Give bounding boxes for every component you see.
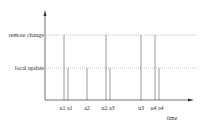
- remote-change-label: remote change: [9, 32, 44, 38]
- tick-label-u3: u3: [138, 105, 144, 111]
- x-axis-arrow-icon: [188, 99, 194, 102]
- x-axis-label: time: [167, 115, 178, 121]
- timeline-diagram: remote change local update u1 a1 a2 u2 a…: [0, 0, 202, 129]
- tick-label-u4-a4: u4 a4: [150, 105, 163, 111]
- tick-label-a2: a2: [84, 105, 90, 111]
- tick-label-u2-a3: u2 a3: [101, 105, 114, 111]
- y-axis-arrow-icon: [44, 10, 47, 16]
- tick-label-u1-a1: u1 a1: [59, 105, 72, 111]
- local-update-label: local update: [15, 65, 44, 71]
